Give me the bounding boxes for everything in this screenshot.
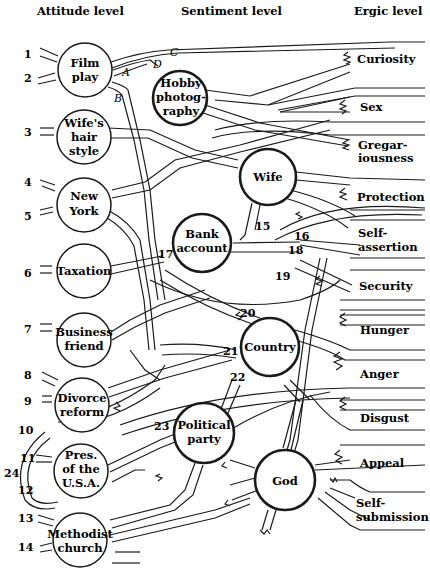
svg-text:Wife's: Wife's [63, 116, 103, 130]
attitude-number-5: 5 [24, 210, 32, 223]
erg-security: Security [359, 279, 413, 293]
svg-text:Wife: Wife [252, 170, 282, 184]
link-number-15: 15 [255, 220, 270, 233]
path-label-b: B [113, 92, 122, 105]
link-number-23: 23 [154, 420, 169, 433]
svg-text:photog-: photog- [156, 90, 206, 104]
sentiment-node-bank-account: Bank account [173, 214, 231, 272]
svg-text:submission: submission [356, 510, 429, 524]
path-label-d: D [152, 58, 162, 71]
attitude-number-3: 3 [24, 126, 32, 139]
svg-text:party: party [187, 432, 221, 446]
sentiment-node-hobby-photography: Hobby photog- raphy [153, 71, 207, 125]
erg-disgust: Disgust [360, 411, 410, 425]
sentiment-node-god: God [255, 450, 315, 510]
svg-text:raphy: raphy [163, 104, 200, 118]
svg-text:U.S.A.: U.S.A. [62, 476, 100, 490]
erg-appeal: Appeal [359, 456, 405, 470]
attitude-number-11: 11 [20, 452, 35, 465]
attitude-number-6: 6 [24, 267, 32, 280]
svg-text:Bank: Bank [185, 227, 220, 241]
svg-text:Pres.: Pres. [65, 448, 98, 462]
link-number-22: 22 [230, 371, 245, 384]
svg-text:friend: friend [64, 339, 103, 353]
svg-text:church: church [57, 541, 103, 555]
attitude-number-14: 14 [18, 541, 34, 554]
attitude-node-new-york: New York [57, 178, 111, 232]
attitude-number-2: 2 [24, 72, 32, 85]
svg-text:Methodist: Methodist [47, 527, 113, 541]
svg-text:assertion: assertion [358, 240, 418, 254]
link-number-18: 18 [288, 244, 304, 257]
svg-text:hair: hair [71, 130, 98, 144]
svg-text:account: account [176, 241, 228, 255]
attitude-number-9: 9 [24, 395, 32, 408]
svg-text:God: God [272, 474, 298, 488]
attitude-number-4: 4 [24, 176, 32, 189]
header-sentiment-level: Sentiment level [181, 4, 283, 18]
erg-sex: Sex [360, 100, 383, 114]
erg-hunger: Hunger [360, 323, 410, 337]
link-number-19: 19 [275, 270, 290, 283]
attitude-node-film-play: Film play [58, 43, 112, 97]
header-attitude-level: Attitude level [36, 4, 124, 18]
attitude-number-13: 13 [18, 512, 33, 525]
attitude-number-10: 10 [18, 424, 34, 437]
path-label-c: C [170, 46, 179, 59]
dynamic-lattice-diagram: Attitude level Sentiment level Ergic lev… [0, 0, 430, 582]
link-number-17: 17 [158, 248, 173, 261]
attitude-node-wifes-hair-style: Wife's hair style [57, 110, 111, 164]
svg-text:Hobby: Hobby [160, 76, 202, 90]
svg-text:Self-: Self- [358, 226, 388, 240]
attitude-node-taxation: Taxation [57, 244, 113, 298]
header-ergic-level: Ergic level [354, 4, 423, 18]
svg-text:Country: Country [244, 340, 296, 354]
erg-protection: Protection [357, 190, 425, 204]
svg-text:Film: Film [70, 56, 99, 70]
svg-text:Self-: Self- [356, 496, 386, 510]
sentiment-node-wife: Wife [240, 149, 296, 205]
link-number-16: 16 [294, 230, 310, 243]
erg-anger: Anger [359, 367, 400, 381]
svg-text:iousness: iousness [358, 151, 414, 165]
attitude-number-12: 12 [18, 484, 33, 497]
link-number-20: 20 [240, 307, 256, 320]
attitude-node-president-usa: Pres. of the U.S.A. [54, 444, 108, 498]
attitude-number-7: 7 [24, 323, 32, 336]
svg-text:of the: of the [62, 462, 100, 476]
attitude-number-1: 1 [24, 48, 32, 61]
svg-text:Divorce: Divorce [57, 391, 106, 405]
link-number-24: 24 [4, 467, 20, 480]
link-number-21: 21 [223, 345, 238, 358]
erg-self-assertion: Self- assertion [358, 226, 418, 254]
svg-text:York: York [69, 204, 100, 218]
attitude-node-methodist-church: Methodist church [47, 513, 113, 567]
attitude-number-8: 8 [24, 369, 32, 382]
svg-text:style: style [69, 144, 99, 158]
svg-text:Political: Political [177, 418, 231, 432]
svg-text:play: play [72, 70, 99, 84]
sentiment-node-country: Country [241, 318, 299, 376]
erg-curiosity: Curiosity [357, 52, 416, 66]
attitude-node-business-friend: Business friend [55, 313, 113, 367]
svg-text:Taxation: Taxation [57, 264, 113, 278]
erg-self-submission: Self- submission [356, 496, 429, 524]
svg-text:Gregar-: Gregar- [358, 138, 408, 152]
attitude-node-divorce-reform: Divorce reform [55, 378, 109, 432]
sentiment-node-political-party: Political party [174, 403, 234, 463]
svg-text:New: New [70, 189, 99, 203]
path-label-a: A [121, 66, 130, 79]
svg-text:reform: reform [60, 405, 104, 419]
svg-text:Business: Business [55, 325, 113, 339]
erg-gregariousness: Gregar- iousness [358, 138, 414, 165]
